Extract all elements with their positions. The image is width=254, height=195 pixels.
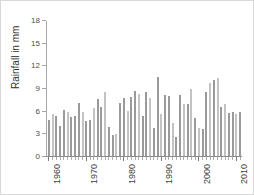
x-axis-tick bbox=[48, 157, 49, 161]
x-axis-tick bbox=[165, 157, 166, 160]
bar bbox=[232, 112, 234, 156]
x-axis-tick bbox=[120, 157, 121, 160]
x-axis-tick bbox=[183, 157, 184, 160]
x-axis-tick bbox=[213, 157, 214, 160]
x-axis-tick bbox=[202, 157, 203, 160]
bar bbox=[202, 129, 204, 156]
x-axis-tick bbox=[161, 157, 162, 161]
bar bbox=[190, 89, 192, 157]
plot-area: 0369121518 196019701980199020002010 bbox=[46, 21, 242, 157]
x-axis-tick bbox=[60, 157, 61, 160]
x-axis-tick-label: 2010 bbox=[240, 164, 249, 184]
y-axis-tick-label: 15 bbox=[31, 40, 40, 48]
y-axis-tick bbox=[42, 43, 46, 44]
x-axis-tick bbox=[195, 157, 196, 160]
bar bbox=[127, 111, 129, 156]
bar bbox=[59, 126, 61, 156]
x-axis-tick bbox=[86, 157, 87, 161]
x-axis-tick bbox=[168, 157, 169, 160]
y-axis-tick bbox=[42, 111, 46, 112]
x-axis-tick bbox=[150, 157, 151, 160]
bar bbox=[82, 112, 84, 156]
bar bbox=[52, 114, 54, 156]
bar bbox=[145, 92, 147, 157]
bar bbox=[149, 98, 151, 156]
x-axis-tick bbox=[146, 157, 147, 160]
x-axis-tick bbox=[105, 157, 106, 160]
x-axis-tick bbox=[225, 157, 226, 160]
x-axis-tick bbox=[172, 157, 173, 160]
bar bbox=[209, 83, 211, 156]
bar bbox=[239, 112, 241, 156]
bar bbox=[198, 128, 200, 156]
x-axis-tick bbox=[138, 157, 139, 160]
bar-slot bbox=[238, 21, 242, 156]
bar bbox=[112, 135, 114, 156]
bar bbox=[217, 78, 219, 156]
bar bbox=[194, 118, 196, 156]
bar bbox=[179, 95, 181, 156]
x-axis-tick bbox=[127, 157, 128, 160]
bar bbox=[235, 114, 237, 156]
bar bbox=[138, 94, 140, 156]
y-axis-tick-label: 6 bbox=[36, 108, 40, 116]
x-axis-tick bbox=[131, 157, 132, 160]
y-axis-tick-label: 0 bbox=[36, 153, 40, 161]
x-axis-tick bbox=[108, 157, 109, 160]
bar bbox=[187, 104, 189, 156]
x-axis-tick bbox=[52, 157, 53, 160]
x-axis-tick bbox=[101, 157, 102, 160]
x-axis-tick bbox=[78, 157, 79, 160]
y-axis-tick-label: 3 bbox=[36, 130, 40, 138]
bar bbox=[104, 92, 106, 156]
bar bbox=[74, 116, 76, 157]
x-axis-tick bbox=[236, 157, 237, 161]
y-axis-title: Rainfall in mm bbox=[11, 26, 21, 89]
bar bbox=[115, 134, 117, 156]
x-axis-tick bbox=[123, 157, 124, 161]
bar bbox=[55, 116, 57, 156]
y-axis-tick-label: 9 bbox=[36, 85, 40, 93]
x-axis-tick-label: 1960 bbox=[53, 164, 62, 184]
bar bbox=[67, 112, 69, 156]
x-axis-tick bbox=[210, 157, 211, 160]
bar bbox=[157, 77, 159, 157]
bar bbox=[142, 116, 144, 157]
x-axis-tick-slot bbox=[238, 157, 242, 161]
x-axis-tick bbox=[228, 157, 229, 160]
bar bbox=[224, 104, 226, 156]
bar bbox=[119, 103, 121, 156]
bar bbox=[153, 128, 155, 157]
x-axis-tick bbox=[206, 157, 207, 160]
bar bbox=[89, 120, 91, 156]
x-axis-tick bbox=[157, 157, 158, 160]
bar bbox=[123, 98, 125, 156]
x-axis-ticks bbox=[47, 157, 242, 161]
x-axis-tick bbox=[135, 157, 136, 160]
x-axis-tick bbox=[217, 157, 218, 160]
bar bbox=[130, 97, 132, 156]
bar bbox=[220, 107, 222, 157]
bar bbox=[93, 108, 95, 156]
bar bbox=[213, 80, 215, 156]
x-axis-tick-label: 1980 bbox=[128, 164, 137, 184]
bar bbox=[78, 103, 80, 156]
x-axis-tick bbox=[71, 157, 72, 160]
bar bbox=[48, 120, 50, 156]
x-axis-tick bbox=[221, 157, 222, 160]
x-axis-tick bbox=[198, 157, 199, 161]
x-axis-tick-label: 2000 bbox=[203, 164, 212, 184]
x-axis-tick bbox=[116, 157, 117, 160]
bar bbox=[172, 123, 174, 156]
x-axis-tick bbox=[232, 157, 233, 160]
x-axis-tick bbox=[112, 157, 113, 160]
x-axis-tick bbox=[240, 157, 241, 160]
bar bbox=[164, 95, 166, 156]
bar bbox=[168, 96, 170, 156]
y-axis-tick bbox=[42, 133, 46, 134]
x-axis-tick bbox=[56, 157, 57, 160]
y-axis-tick bbox=[42, 88, 46, 89]
x-axis-tick bbox=[142, 157, 143, 160]
y-axis-tick bbox=[42, 156, 46, 157]
bar bbox=[97, 99, 99, 156]
